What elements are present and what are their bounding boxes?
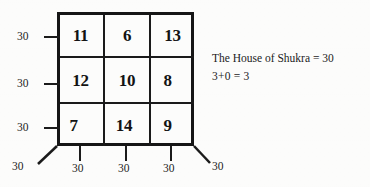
grid-cell-r2c3: 8 — [151, 58, 194, 104]
grid-cell-r3c2: 14 — [105, 104, 151, 146]
diagonal-br-sum-label: 30 — [212, 161, 224, 173]
figure-canvas: 11 6 13 12 10 8 7 14 9 30 30 30 30 30 30… — [0, 0, 370, 187]
grid-cell-r2c1: 12 — [60, 58, 105, 104]
col-1-tick — [79, 146, 81, 161]
diagonal-br-tick — [194, 146, 210, 163]
col-2-tick — [125, 146, 127, 161]
row-2-tick — [44, 83, 60, 85]
cell-value: 11 — [73, 27, 88, 44]
grid-cell-r3c1: 7 — [60, 104, 105, 146]
cell-value: 9 — [163, 117, 171, 134]
annotation-line-2: 3+0 = 3 — [212, 68, 362, 86]
grid-cell-r3c3: 9 — [151, 104, 194, 146]
cell-value: 14 — [116, 117, 132, 134]
row-1-tick — [44, 36, 60, 38]
cell-value: 13 — [164, 27, 180, 44]
cell-value: 7 — [69, 117, 77, 134]
row-3-sum-label: 30 — [17, 122, 29, 134]
cell-value: 12 — [72, 72, 88, 89]
annotation-text-block: The House of Shukra = 30 3+0 = 3 — [212, 50, 362, 86]
diagonal-bl-tick — [38, 146, 57, 164]
col-2-sum-label: 30 — [118, 163, 130, 175]
col-1-sum-label: 30 — [72, 163, 84, 175]
row-3-tick — [44, 127, 60, 129]
cell-value: 10 — [119, 72, 135, 89]
annotation-line-1: The House of Shukra = 30 — [212, 50, 362, 68]
col-3-sum-label: 30 — [163, 163, 175, 175]
diagonal-bl-sum-label: 30 — [12, 161, 24, 173]
row-1-sum-label: 30 — [17, 31, 29, 43]
grid-cell-r1c3: 13 — [151, 15, 194, 58]
row-2-sum-label: 30 — [17, 78, 29, 90]
col-3-tick — [170, 146, 172, 161]
grid-cell-r2c2: 10 — [105, 58, 151, 104]
cell-value: 8 — [163, 72, 171, 89]
grid-cell-r1c2: 6 — [105, 15, 151, 58]
magic-square-grid: 11 6 13 12 10 8 7 14 9 — [57, 12, 194, 146]
cell-value: 6 — [123, 27, 131, 44]
grid-cell-r1c1: 11 — [60, 15, 105, 58]
